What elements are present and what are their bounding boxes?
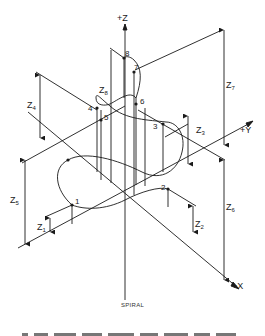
point-3-label: 3 bbox=[153, 122, 158, 131]
y-axis bbox=[18, 122, 252, 248]
z7-label: Z7 bbox=[226, 80, 236, 91]
spiral-diagram: +Z +Y +X 1 2 3 4 5 6 7 8 Z4 Z8 Z7 Z3 Z5 … bbox=[0, 0, 265, 336]
diagram-caption: SPIRAL bbox=[0, 302, 265, 308]
z4-label: Z4 bbox=[27, 100, 37, 111]
z2-label: Z2 bbox=[195, 219, 205, 230]
point-1-label: 1 bbox=[75, 197, 80, 206]
point-5-label: 5 bbox=[104, 113, 109, 122]
x-axis bbox=[28, 112, 238, 288]
point-8-label: 8 bbox=[125, 49, 130, 58]
z1-label: Z1 bbox=[37, 222, 47, 233]
point-7-label: 7 bbox=[134, 63, 139, 72]
z8-label: Z8 bbox=[99, 85, 109, 96]
point-4-label: 4 bbox=[88, 104, 93, 113]
y-axis-label: +Y bbox=[240, 125, 251, 135]
point-2-label: 2 bbox=[161, 183, 166, 192]
z-axis-label: +Z bbox=[117, 13, 128, 23]
x-axis-label: +X bbox=[232, 281, 243, 291]
cropped-text-line bbox=[0, 330, 265, 336]
z3-label: Z3 bbox=[196, 125, 206, 136]
z5-label: Z5 bbox=[10, 195, 20, 206]
z6-label: Z6 bbox=[226, 202, 236, 213]
point-6-label: 6 bbox=[140, 97, 145, 106]
